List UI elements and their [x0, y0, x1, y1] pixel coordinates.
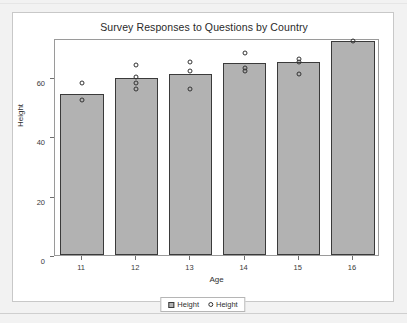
scatter-point	[134, 62, 139, 67]
legend-label: Height	[216, 300, 238, 309]
x-tick-label: 12	[131, 263, 139, 272]
scatter-point	[188, 59, 193, 64]
plot-frame	[54, 39, 379, 256]
scatter-point	[188, 68, 193, 73]
scatter-point	[350, 38, 355, 43]
legend-entry[interactable]: Height	[168, 300, 199, 309]
scatter-point	[80, 98, 85, 103]
scatter-point	[296, 59, 301, 64]
x-axis-title: Age	[54, 275, 379, 284]
x-tick-mark	[298, 256, 299, 260]
bar	[60, 94, 103, 255]
plot-area	[55, 40, 378, 255]
y-tick-label: 0	[41, 257, 45, 266]
x-tick-label: 13	[185, 263, 193, 272]
y-tick-label: 60	[37, 78, 45, 87]
bar	[277, 62, 320, 255]
x-tick-mark	[352, 256, 353, 260]
x-tick-label: 16	[348, 263, 356, 272]
bar	[223, 63, 266, 255]
x-tick-label: 11	[77, 263, 85, 272]
legend-entry[interactable]: Height	[208, 300, 238, 309]
scatter-point	[188, 86, 193, 91]
legend-square-icon	[168, 302, 174, 308]
x-tick-label: 15	[294, 263, 302, 272]
scatter-point	[296, 71, 301, 76]
bar	[169, 74, 212, 255]
legend-label: Height	[177, 300, 199, 309]
y-tick-label: 40	[37, 138, 45, 147]
bottom-divider	[0, 313, 407, 314]
y-axis: 0204060	[13, 39, 54, 256]
bar	[115, 78, 158, 255]
scatter-point	[242, 68, 247, 73]
legend-circle-icon	[208, 302, 213, 307]
bar	[331, 41, 374, 255]
scatter-point	[80, 80, 85, 85]
chart-legend: HeightHeight	[160, 297, 245, 312]
x-tick-mark	[244, 256, 245, 260]
x-tick-label: 14	[239, 263, 247, 272]
chart-title: Survey Responses to Questions by Country	[13, 21, 395, 33]
x-tick-mark	[81, 256, 82, 260]
chart-screenshot: Survey Responses to Questions by Country…	[0, 0, 407, 323]
y-tick-label: 20	[37, 197, 45, 206]
scatter-point	[134, 86, 139, 91]
x-tick-mark	[189, 256, 190, 260]
scatter-point	[134, 80, 139, 85]
y-axis-title: Height	[16, 86, 25, 146]
scatter-point	[134, 74, 139, 79]
x-tick-mark	[135, 256, 136, 260]
top-divider	[0, 3, 407, 4]
scatter-point	[242, 50, 247, 55]
chart-card: Survey Responses to Questions by Country…	[12, 12, 394, 302]
